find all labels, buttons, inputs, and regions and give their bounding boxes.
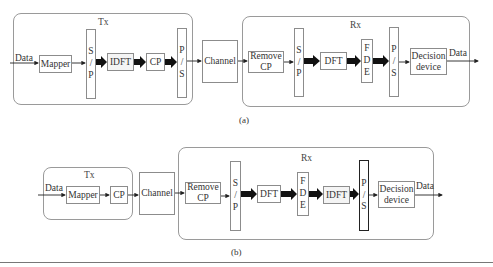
- connection-arrows: [0, 0, 493, 267]
- thin-arrows-b: [38, 193, 442, 196]
- thin-arrows-a: [10, 61, 478, 63]
- bus-arrows-b: [241, 188, 359, 200]
- figure-bottom-rule: [0, 262, 493, 263]
- bus-arrows-a: [96, 55, 389, 68]
